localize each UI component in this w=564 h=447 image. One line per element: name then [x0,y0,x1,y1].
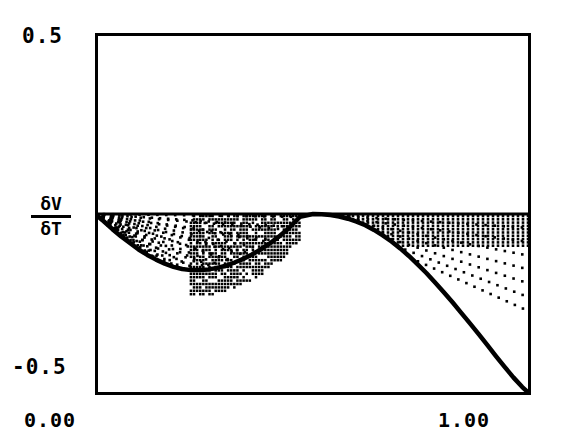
x-axis-min-label: 0.00 [24,408,76,432]
y-axis-title-numerator: δV [22,195,80,213]
y-axis-title: δV δT [22,195,80,238]
y-axis-title-denominator: δT [22,220,80,238]
chart-canvas: 0.5 -0.5 0.00 1.00 δV δT [0,0,564,447]
y-axis-min-label: -0.5 [12,355,67,379]
y-axis-max-label: 0.5 [22,24,63,48]
x-axis-max-label: 1.00 [438,408,490,432]
plot-area [95,33,531,395]
data-curve [95,214,531,395]
